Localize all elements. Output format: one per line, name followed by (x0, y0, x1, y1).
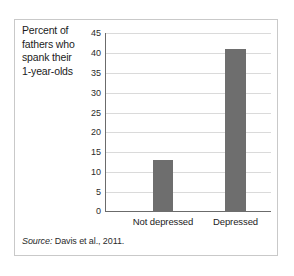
gridline: 25 (105, 113, 271, 114)
y-tick-label: 30 (91, 88, 101, 97)
source-note: Source: Davis et al., 2011. (22, 236, 124, 246)
y-tick-label: 35 (91, 68, 101, 77)
gridline: 15 (105, 152, 271, 153)
y-axis-line (105, 33, 106, 212)
y-tick-label: 25 (91, 108, 101, 117)
gridline: 20 (105, 132, 271, 133)
y-tick-label: 45 (91, 29, 101, 38)
gridline: 45 (105, 33, 271, 34)
y-tick-label: 0 (96, 207, 101, 216)
gridline: 10 (105, 172, 271, 173)
plot-area: 051015202530354045 Not depressedDepresse… (105, 33, 271, 212)
bar-not-depressed (153, 160, 173, 212)
y-tick-label: 40 (91, 48, 101, 57)
gridline: 35 (105, 73, 271, 74)
bar-depressed (225, 49, 246, 212)
source-label: Source: (22, 236, 52, 246)
gridline: 40 (105, 53, 271, 54)
y-tick-label: 15 (91, 148, 101, 157)
y-tick-label: 20 (91, 128, 101, 137)
y-tick-label: 5 (96, 188, 101, 197)
gridline: 5 (105, 192, 271, 193)
figure-container: Percent of fathers who spank their 1-yea… (14, 19, 278, 256)
source-citation: Davis et al., 2011. (52, 236, 124, 246)
gridline: 30 (105, 93, 271, 94)
x-axis-baseline: 0 (105, 211, 271, 212)
x-tick-label: Not depressed (133, 216, 194, 227)
y-tick-label: 10 (91, 168, 101, 177)
x-tick-label: Depressed (213, 216, 258, 227)
